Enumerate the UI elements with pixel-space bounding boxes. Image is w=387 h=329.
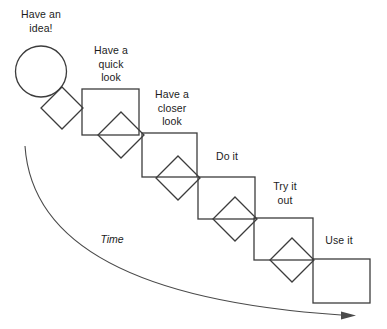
shape-rect-step-2: [82, 89, 139, 135]
label-step-1: Have an idea!: [8, 8, 74, 35]
shape-rect-step-4: [198, 177, 255, 219]
diagram-vector-layer: [0, 0, 387, 329]
shape-rect-step-5: [254, 218, 313, 260]
time-arrow-curve: [25, 146, 341, 315]
label-step-5: Try it out: [252, 180, 318, 207]
shape-rect-step-3: [142, 133, 197, 177]
label-step-4: Do it: [194, 150, 260, 164]
label-step-3: Have a closer look: [139, 88, 205, 129]
label-time-axis: Time: [92, 233, 132, 246]
label-step-6: Use it: [306, 234, 372, 248]
diagram-canvas: Have an idea! Have a quick look Have a c…: [0, 0, 387, 329]
shape-rect-step-6: [313, 259, 370, 303]
label-step-2: Have a quick look: [78, 44, 144, 85]
connector-diamond-1: [41, 87, 83, 129]
time-arrow-head: [341, 312, 356, 320]
